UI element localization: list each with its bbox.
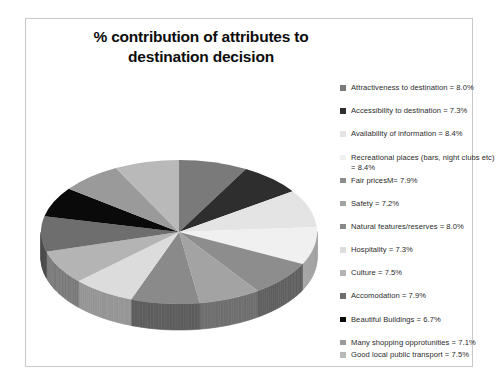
legend-item[interactable]: Attractiveness to destination = 8.0% bbox=[340, 83, 496, 94]
legend-swatch-icon bbox=[340, 340, 346, 346]
chart-title-line-1: % contribution of attributes to bbox=[56, 27, 346, 47]
pie-slice-side bbox=[192, 304, 195, 330]
pie-slice-side bbox=[216, 301, 219, 327]
pie-slice-side bbox=[102, 292, 104, 319]
legend-item-label: Culture = 7.5% bbox=[351, 268, 496, 279]
pie-slice-side bbox=[236, 297, 238, 324]
legend-swatch-icon bbox=[340, 247, 346, 253]
pie-slice-side bbox=[251, 293, 253, 320]
legend-item[interactable]: Accessibility to destination = 7.3% bbox=[340, 106, 496, 117]
pie-slice-side bbox=[97, 290, 99, 317]
pie-slice-side bbox=[126, 298, 129, 325]
pie-slice-side bbox=[223, 300, 226, 326]
pie-slice-side bbox=[109, 294, 111, 321]
legend-item[interactable]: Beautiful Buildings = 6.7% bbox=[340, 315, 496, 326]
pie-slice-side bbox=[156, 303, 159, 329]
pie-slice-side bbox=[239, 296, 241, 323]
legend-item-label: Fair pricesM= 7.9% bbox=[351, 176, 496, 187]
pie-slice-side bbox=[244, 295, 246, 322]
pie-slice-side bbox=[258, 290, 260, 317]
pie-slice-side bbox=[246, 294, 248, 321]
legend-item-label: Hospitality = 7.3% bbox=[351, 245, 496, 256]
pie-slice-side bbox=[269, 286, 271, 313]
chart-title-line-2: destination decision bbox=[56, 47, 346, 67]
pie-slice-side bbox=[205, 302, 208, 328]
pie-top-face bbox=[41, 160, 317, 304]
pie-slice-side bbox=[151, 302, 154, 328]
legend-item-label: Natural features/reserves = 8.0% bbox=[351, 222, 496, 233]
pie-slice-side bbox=[221, 300, 224, 326]
legend-item[interactable]: Good local public transport = 7.5% bbox=[340, 350, 496, 361]
pie-slice-side bbox=[86, 285, 88, 312]
legend-swatch-icon bbox=[340, 85, 346, 91]
legend-swatch-icon bbox=[340, 155, 346, 161]
pie-slice-side bbox=[118, 297, 120, 324]
pie-slice-side bbox=[210, 302, 213, 328]
legend-swatch-icon bbox=[340, 270, 346, 276]
legend-item-label: Attractiveness to destination = 8.0% bbox=[351, 83, 496, 94]
pie-slice-side bbox=[128, 299, 131, 326]
pie-slice-side bbox=[167, 304, 170, 330]
pie-slice-side bbox=[262, 289, 264, 316]
pie-slice-side bbox=[99, 291, 101, 318]
pie-slice-side bbox=[121, 297, 124, 324]
pie-slice-side bbox=[148, 302, 151, 328]
pie-slice-side bbox=[137, 301, 140, 327]
legend-item[interactable]: Culture = 7.5% bbox=[340, 268, 496, 279]
pie-slice-side bbox=[194, 303, 197, 329]
pie-slice-side bbox=[135, 300, 138, 326]
legend-item[interactable]: Hospitality = 7.3% bbox=[340, 245, 496, 256]
pie-slice-side bbox=[231, 298, 234, 325]
pie-chart-svg bbox=[34, 127, 324, 362]
pie-slice-side bbox=[175, 304, 178, 330]
pie-slice-side bbox=[123, 298, 126, 325]
pie-slice-side bbox=[189, 304, 192, 330]
legend-swatch-icon bbox=[340, 108, 346, 114]
legend-item-label: Safety = 7.2% bbox=[351, 199, 496, 210]
pie-slice-side bbox=[104, 292, 106, 319]
pie-slice-side bbox=[202, 303, 205, 329]
pie-slice-side bbox=[159, 303, 162, 329]
pie-slice-side bbox=[172, 304, 175, 330]
pie-chart bbox=[34, 127, 324, 362]
legend-swatch-icon bbox=[340, 293, 346, 299]
legend-item[interactable]: Fair pricesM= 7.9% bbox=[340, 176, 496, 187]
pie-slice-side bbox=[265, 288, 267, 315]
pie-slice-side bbox=[229, 299, 232, 326]
legend-item[interactable]: Natural features/reserves = 8.0% bbox=[340, 222, 496, 233]
legend-item[interactable]: Many shopping opprotunities = 7.1% bbox=[340, 338, 496, 349]
pie-slice-side bbox=[89, 286, 91, 313]
pie-slice-side bbox=[164, 304, 167, 330]
legend-item[interactable]: Recreational places (bars, night clubs e… bbox=[340, 153, 496, 175]
pie-slice-side bbox=[145, 302, 148, 328]
pie-slice-side bbox=[241, 296, 243, 323]
legend-item-label: Many shopping opprotunities = 7.1% bbox=[351, 338, 496, 349]
legend-item[interactable]: Accomodation = 7.9% bbox=[340, 291, 496, 302]
pie-slice-side bbox=[218, 301, 221, 327]
legend-item-label: Recreational places (bars, night clubs e… bbox=[351, 153, 496, 175]
pie-slice-side bbox=[142, 301, 145, 327]
legend-item[interactable]: Availability of information = 8.4% bbox=[340, 129, 496, 140]
pie-slice-side bbox=[208, 302, 211, 328]
slide-page: % contribution of attributes to destinat… bbox=[0, 0, 497, 385]
pie-slice-side bbox=[226, 299, 229, 326]
legend-item-label: Good local public transport = 7.5% bbox=[351, 350, 496, 361]
pie-slice-side bbox=[181, 304, 184, 330]
pie-slice-side bbox=[140, 301, 143, 327]
legend-swatch-icon bbox=[340, 178, 346, 184]
legend-item[interactable]: Safety = 7.2% bbox=[340, 199, 496, 210]
legend-item-label: Accomodation = 7.9% bbox=[351, 291, 496, 302]
pie-slice-side bbox=[93, 288, 95, 315]
pie-slice-side bbox=[260, 289, 262, 316]
legend-item-label: Accessibility to destination = 7.3% bbox=[351, 106, 496, 117]
pie-slice-side bbox=[178, 304, 181, 330]
legend-swatch-icon bbox=[340, 131, 346, 137]
pie-slice-side bbox=[153, 303, 156, 329]
legend-item-label: Beautiful Buildings = 6.7% bbox=[351, 315, 496, 326]
pie-slice-side bbox=[183, 304, 186, 330]
legend-item-label: Availability of information = 8.4% bbox=[351, 129, 496, 140]
pie-slice-side bbox=[267, 287, 269, 314]
pie-slice-side bbox=[116, 296, 118, 323]
pie-slice-side bbox=[161, 303, 164, 329]
pie-slice-side bbox=[234, 298, 237, 325]
